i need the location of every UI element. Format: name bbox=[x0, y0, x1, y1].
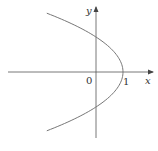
x-axis-label: x bbox=[145, 75, 151, 86]
x-intercept-label: 1 bbox=[123, 76, 129, 87]
parabola-diagram: y x 0 1 bbox=[0, 0, 158, 151]
y-axis-label: y bbox=[85, 5, 92, 16]
origin-label: 0 bbox=[86, 75, 92, 86]
